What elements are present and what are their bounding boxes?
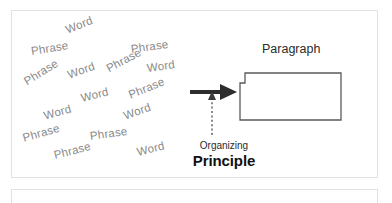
scatter-word: Phrase bbox=[22, 57, 60, 87]
scatter-word: Word bbox=[64, 14, 95, 36]
scatter-word: Phrase bbox=[104, 46, 143, 74]
scatter-word: Phrase bbox=[127, 75, 166, 100]
caption-block: Organizing Principle bbox=[186, 140, 262, 169]
scatter-word: Phrase bbox=[53, 140, 92, 161]
scatter-word: Phrase bbox=[21, 122, 60, 144]
next-slide-panel bbox=[11, 189, 378, 203]
scatter-word: Word bbox=[66, 60, 96, 81]
dotted-pointer bbox=[206, 89, 218, 141]
scatter-word: Word bbox=[136, 139, 166, 157]
scatter-word: Word bbox=[80, 85, 110, 103]
scatter-word: Word bbox=[122, 101, 152, 122]
scatter-word: Word bbox=[42, 102, 72, 121]
caption-line-principle: Principle bbox=[186, 152, 262, 169]
paragraph-label: Paragraph bbox=[262, 42, 320, 56]
scatter-word: Phrase bbox=[30, 39, 69, 57]
paragraph-shape bbox=[238, 64, 344, 126]
scatter-word: Phrase bbox=[89, 125, 128, 142]
scatter-word: Word bbox=[146, 58, 175, 74]
caption-line-organizing: Organizing bbox=[186, 140, 262, 152]
diagram-canvas: WordPhrasePhrasePhraseWordWordPhraseWord… bbox=[0, 0, 392, 203]
